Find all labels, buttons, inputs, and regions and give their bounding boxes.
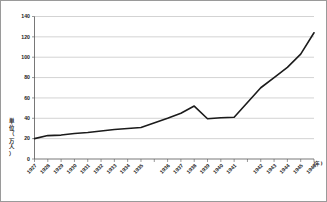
y-axis-unit-char: （ <box>9 130 15 137</box>
x-axis-tick-label: 1927 <box>25 162 37 174</box>
x-axis-tick-label: 1944 <box>278 162 290 174</box>
y-axis-unit-char: ） <box>9 150 14 157</box>
y-axis-tick-label: 40 <box>24 115 30 121</box>
x-axis-tick-label: 1931 <box>79 162 91 174</box>
x-axis-tick-label: 1945 <box>292 162 304 174</box>
chart-container: 0204060801001201401927192819291930193119… <box>0 0 327 202</box>
x-axis-ticks: 1927192819291930193119321933193419351936… <box>25 159 317 175</box>
x-axis-tick-label: 1929 <box>52 162 64 174</box>
y-axis-tick-label: 0 <box>27 156 30 162</box>
x-axis-tick-label: 1936 <box>158 162 170 174</box>
y-axis-unit-char: 人 <box>9 143 15 150</box>
x-axis-tick-label: 1941 <box>225 162 237 174</box>
x-axis-tick-label: 1934 <box>119 162 131 174</box>
y-axis-tick-label: 120 <box>21 34 30 40</box>
y-axis-tick-label: 100 <box>21 54 30 60</box>
x-axis-tick-label: 1938 <box>185 162 197 174</box>
x-axis-unit-label: (年) <box>313 160 322 167</box>
y-axis-tick-label: 140 <box>21 13 30 19</box>
x-axis-tick-label: 1937 <box>172 162 184 174</box>
y-gridlines: 020406080100120140 <box>21 13 314 162</box>
x-axis-tick-label: 1942 <box>252 162 264 174</box>
x-axis-tick-label: 1928 <box>39 162 51 174</box>
x-axis-tick-label: 1933 <box>105 162 117 174</box>
axes <box>35 17 315 160</box>
y-axis-tick-label: 20 <box>24 135 30 141</box>
y-axis-tick-label: 60 <box>24 95 30 101</box>
x-axis-tick-label: 1943 <box>265 162 277 174</box>
y-axis-tick-label: 80 <box>24 74 30 80</box>
x-axis-tick-label: 1930 <box>65 162 77 174</box>
x-axis-tick-label: 1940 <box>212 162 224 174</box>
x-axis-tick-label: 1939 <box>198 162 210 174</box>
y-axis-unit-label: 単位（万人） <box>8 117 15 157</box>
x-axis-tick-label: 1932 <box>92 162 104 174</box>
data-series-line <box>35 33 315 139</box>
line-chart: 0204060801001201401927192819291930193119… <box>1 1 327 202</box>
x-axis-tick-label: 1935 <box>132 162 144 174</box>
